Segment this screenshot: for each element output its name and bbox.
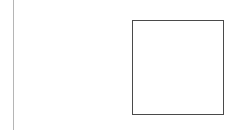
square-shape — [132, 20, 224, 115]
diagram-canvas — [0, 0, 238, 131]
vertical-divider-line — [13, 0, 14, 130]
